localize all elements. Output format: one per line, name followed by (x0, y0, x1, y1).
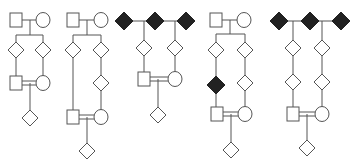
unknown-sex-diamond (208, 42, 224, 58)
affected-unknown-sex-diamond (301, 12, 319, 30)
affected-unknown-sex-diamond (146, 12, 164, 30)
pedigree-3 (115, 12, 195, 123)
unknown-sex-diamond (167, 40, 183, 56)
unknown-sex-diamond (35, 42, 51, 58)
unknown-sex-diamond (136, 40, 152, 56)
unknown-sex-diamond (285, 74, 301, 90)
unknown-sex-diamond (285, 40, 301, 56)
affected-unknown-sex-diamond (177, 12, 195, 30)
male-square (67, 13, 79, 27)
unknown-sex-diamond (314, 40, 330, 56)
female-circle (238, 107, 252, 122)
unknown-sex-diamond (314, 74, 330, 90)
affected-unknown-sex-diamond (207, 76, 225, 94)
pedigree-diagram (0, 0, 355, 167)
unknown-sex-diamond (150, 107, 166, 123)
unknown-sex-diamond (237, 42, 253, 58)
unknown-sex-diamond (22, 110, 38, 126)
male-square (138, 72, 150, 86)
female-circle (315, 107, 329, 122)
female-circle (94, 13, 108, 28)
male-square (211, 107, 223, 121)
male-square (287, 107, 299, 121)
unknown-sex-diamond (223, 142, 239, 158)
pedigree-4 (207, 13, 253, 159)
female-circle (168, 72, 182, 87)
female-circle (36, 13, 50, 28)
pedigree-2 (65, 13, 109, 160)
unknown-sex-diamond (299, 140, 315, 156)
affected-unknown-sex-diamond (270, 12, 288, 30)
male-square (210, 13, 222, 27)
unknown-sex-diamond (79, 143, 95, 159)
affected-unknown-sex-diamond (332, 12, 350, 30)
female-circle (36, 76, 50, 91)
unknown-sex-diamond (93, 42, 109, 58)
unknown-sex-diamond (8, 42, 24, 58)
pedigree-5 (270, 12, 350, 156)
female-circle (237, 13, 251, 28)
unknown-sex-diamond (65, 42, 81, 58)
male-square (10, 13, 22, 27)
female-circle (94, 110, 108, 125)
male-square (10, 76, 22, 90)
affected-unknown-sex-diamond (115, 12, 133, 30)
unknown-sex-diamond (93, 75, 109, 91)
male-square (67, 110, 79, 124)
unknown-sex-diamond (237, 75, 253, 91)
pedigree-1 (8, 13, 51, 127)
